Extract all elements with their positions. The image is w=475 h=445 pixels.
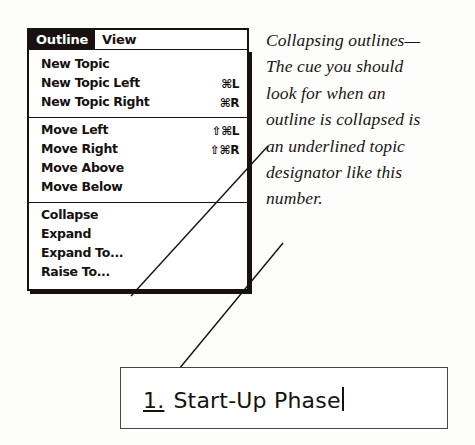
menu-item-label: New Topic xyxy=(41,58,229,71)
annotation-line: Collapsing outlines— xyxy=(266,27,471,53)
menu-item-expand-to[interactable]: Expand To... xyxy=(29,244,247,263)
menu-item-label: Move Right xyxy=(41,143,200,156)
menu-item-label: Move Below xyxy=(41,181,229,194)
menu-item-move-above[interactable]: Move Above xyxy=(29,159,247,178)
menu-item-collapse[interactable]: Collapse xyxy=(29,206,247,225)
menu-bar: Outline View xyxy=(27,28,249,49)
menu-item-shortcut: ⌘L xyxy=(211,78,239,90)
menu-item-label: Collapse xyxy=(41,209,229,222)
annotation-line: number. xyxy=(266,185,471,211)
menu-separator xyxy=(29,202,247,203)
menu-item-new-topic[interactable]: New Topic xyxy=(29,55,247,74)
menu-item-raise-to[interactable]: Raise To... xyxy=(29,263,247,282)
annotation-text: Collapsing outlines— The cue you should … xyxy=(266,27,471,212)
menu-item-shortcut: ⌘R xyxy=(210,97,239,109)
manual-page-scene: Outline View New Topic New Topic Left ⌘L… xyxy=(0,0,475,445)
menu-item-move-right[interactable]: Move Right ⇧⌘R xyxy=(29,140,247,159)
menu-item-shortcut: ⇧⌘R xyxy=(200,144,239,156)
menu-item-new-topic-left[interactable]: New Topic Left ⌘L xyxy=(29,74,247,93)
menu-dropdown-panel: New Topic New Topic Left ⌘L New Topic Ri… xyxy=(27,49,249,291)
annotation-line: an underlined topic xyxy=(266,133,471,159)
topic-text-content: 1. Start-Up Phase xyxy=(121,384,344,412)
menu-group-collapse: Collapse Expand Expand To... Raise To... xyxy=(29,204,247,285)
menu-item-label: Expand xyxy=(41,228,229,241)
menu-item-new-topic-right[interactable]: New Topic Right ⌘R xyxy=(29,93,247,112)
text-caret xyxy=(342,387,344,411)
menu-item-move-below[interactable]: Move Below xyxy=(29,178,247,197)
annotation-line: outline is collapsed is xyxy=(266,106,471,132)
menu-item-shortcut: ⇧⌘L xyxy=(202,125,239,137)
annotation-line: look for when an xyxy=(266,80,471,106)
menu-item-move-left[interactable]: Move Left ⇧⌘L xyxy=(29,121,247,140)
menu-item-label: New Topic Right xyxy=(41,96,210,109)
menu-item-label: New Topic Left xyxy=(41,77,211,90)
menu-item-label: Move Left xyxy=(41,124,202,137)
menu-item-label: Raise To... xyxy=(41,266,229,279)
topic-designator: 1. xyxy=(143,390,164,412)
menu-group-move: Move Left ⇧⌘L Move Right ⇧⌘R Move Above … xyxy=(29,119,247,200)
menu-item-expand[interactable]: Expand xyxy=(29,225,247,244)
topic-title-text: Start-Up Phase xyxy=(173,390,340,412)
outline-menu: Outline View New Topic New Topic Left ⌘L… xyxy=(27,28,249,291)
annotation-line: The cue you should xyxy=(266,53,471,79)
topic-text-box[interactable]: 1. Start-Up Phase xyxy=(120,367,448,429)
menu-item-label: Move Above xyxy=(41,162,229,175)
menu-item-label: Expand To... xyxy=(41,247,229,260)
menu-bar-item-outline[interactable]: Outline xyxy=(29,30,95,49)
menu-bar-item-view[interactable]: View xyxy=(95,30,143,49)
menu-group-new: New Topic New Topic Left ⌘L New Topic Ri… xyxy=(29,53,247,115)
annotation-line: designator like this xyxy=(266,159,471,185)
menu-separator xyxy=(29,117,247,118)
